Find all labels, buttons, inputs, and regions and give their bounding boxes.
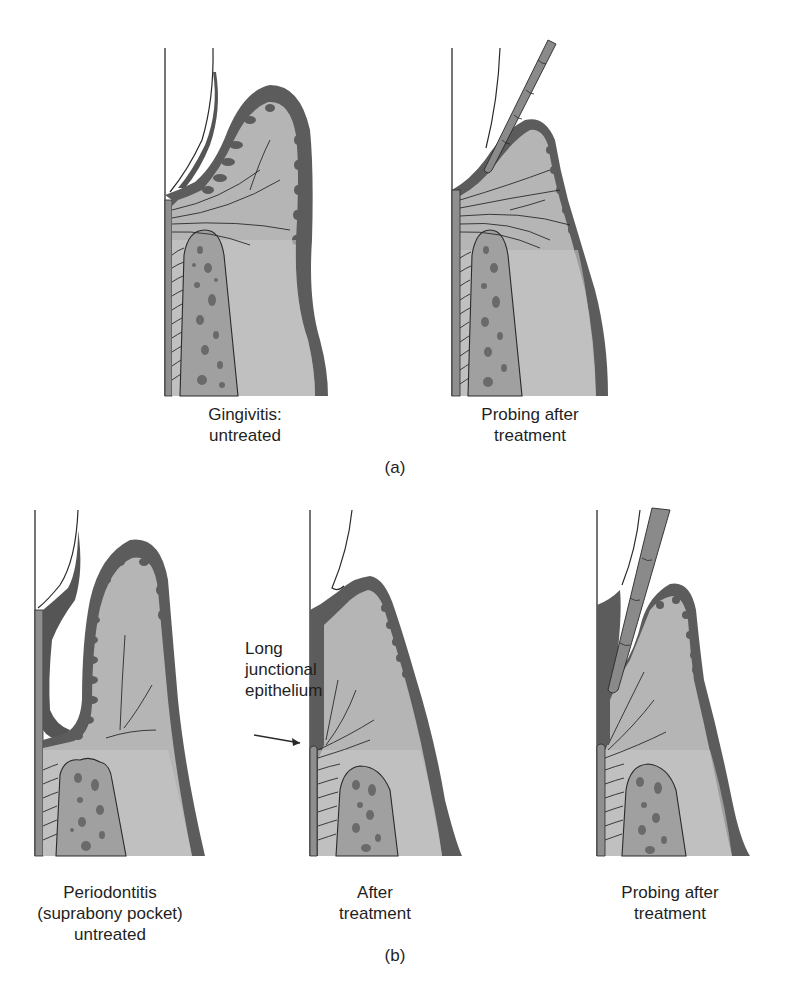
panel-label-a: (a) bbox=[370, 458, 420, 478]
figure-probing-after-treatment-a bbox=[430, 30, 650, 420]
probing-after-treatment-a-illustration bbox=[430, 30, 650, 420]
periodontitis-untreated-illustration bbox=[20, 500, 230, 890]
probing-after-treatment-b-illustration bbox=[580, 500, 780, 890]
caption-after-treatment: After treatment bbox=[320, 882, 430, 924]
annotation-arrow-icon bbox=[250, 725, 310, 755]
caption-probing-after-treatment-a: Probing after treatment bbox=[465, 404, 595, 446]
figure-periodontitis-untreated bbox=[20, 500, 230, 890]
caption-gingivitis-untreated: Gingivitis: untreated bbox=[185, 404, 305, 446]
figure-probing-after-treatment-b bbox=[580, 500, 780, 890]
annotation-long-junctional-epithelium: Long junctional epithelium bbox=[245, 638, 365, 701]
panel-label-b: (b) bbox=[370, 946, 420, 966]
caption-probing-after-treatment-b: Probing after treatment bbox=[605, 882, 735, 924]
caption-periodontitis-untreated: Periodontitis (suprabony pocket) untreat… bbox=[30, 882, 190, 945]
gingivitis-untreated-illustration bbox=[150, 40, 350, 420]
figure-gingivitis-untreated bbox=[150, 40, 350, 420]
